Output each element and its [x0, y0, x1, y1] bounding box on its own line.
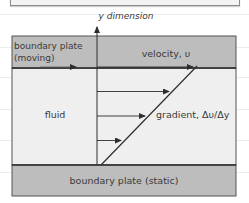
y-dimension-label: y dimension: [98, 11, 154, 21]
moving-plate-label-line1: boundary plate: [14, 41, 83, 51]
moving-plate-label-line2: (moving): [14, 53, 55, 63]
gradient-label: gradient, Δυ/Δy: [156, 109, 230, 120]
static-plate-label: boundary plate (static): [70, 175, 179, 186]
velocity-label: velocity, υ: [142, 48, 191, 59]
fluid-label: fluid: [45, 109, 66, 120]
couette-flow-diagram: y dimension boundary plate (moving) velo…: [0, 0, 249, 203]
